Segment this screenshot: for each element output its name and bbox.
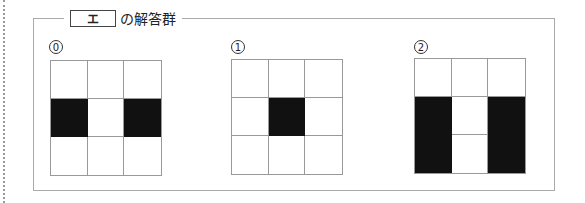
grid-cell-filled xyxy=(488,135,525,173)
grid-cell-filled xyxy=(269,98,306,136)
option-1-grid[interactable] xyxy=(231,59,343,175)
grid-cell-filled xyxy=(415,97,452,135)
grid-cell-empty xyxy=(305,136,342,174)
option-0-number[interactable]: 0 xyxy=(49,40,63,54)
grid-cell-empty xyxy=(88,61,125,99)
grid-cell-empty xyxy=(452,135,489,173)
answer-choices-header: エ の解答群 xyxy=(64,8,182,28)
grid-cell-empty xyxy=(51,61,88,99)
grid-cell-filled xyxy=(488,97,525,135)
grid-cell-empty xyxy=(269,136,306,174)
grid-cell-filled xyxy=(415,135,452,173)
grid-cell-empty xyxy=(452,97,489,135)
option-0-grid[interactable] xyxy=(50,60,162,176)
grid-cell-filled xyxy=(124,99,161,137)
grid-cell-empty xyxy=(305,98,342,136)
grid-cell-empty xyxy=(124,137,161,175)
grid-cell-empty xyxy=(305,60,342,98)
option-1-number[interactable]: 1 xyxy=(231,40,245,54)
grid-cell-empty xyxy=(88,137,125,175)
grid-cell-empty xyxy=(232,98,269,136)
grid-cell-empty xyxy=(232,60,269,98)
blank-label-box: エ xyxy=(70,10,116,27)
grid-cell-filled xyxy=(51,99,88,137)
grid-cell-empty xyxy=(488,59,525,97)
answer-choices-title: の解答群 xyxy=(120,8,176,28)
grid-cell-empty xyxy=(452,59,489,97)
option-2-number[interactable]: 2 xyxy=(414,40,428,54)
grid-cell-empty xyxy=(51,137,88,175)
grid-cell-empty xyxy=(269,60,306,98)
grid-cell-empty xyxy=(88,99,125,137)
grid-cell-empty xyxy=(232,136,269,174)
option-2-grid[interactable] xyxy=(414,58,526,174)
grid-cell-empty xyxy=(124,61,161,99)
grid-cell-empty xyxy=(415,59,452,97)
page-margin-dotted-line xyxy=(3,0,5,203)
